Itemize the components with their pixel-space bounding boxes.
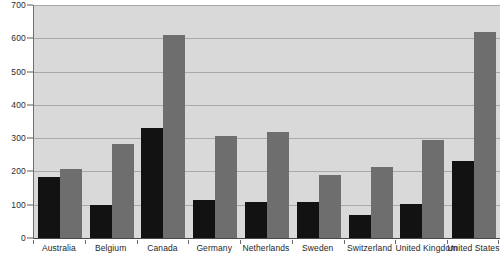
x-axis-tick-mark xyxy=(240,240,241,244)
x-axis-tick-mark xyxy=(85,240,86,244)
x-axis-tick-mark xyxy=(344,240,345,244)
plot-area xyxy=(33,5,500,239)
bar xyxy=(38,177,60,238)
bar xyxy=(141,128,163,238)
bar xyxy=(163,35,185,238)
y-axis-tick-label: 200 xyxy=(11,166,26,176)
x-axis-tick-mark xyxy=(137,240,138,244)
x-axis-tick-label: Sweden xyxy=(292,243,344,253)
y-axis-tick-label: 0 xyxy=(21,233,26,243)
x-axis-tick-mark xyxy=(447,240,448,244)
y-axis-tick-label: 700 xyxy=(11,0,26,10)
bar xyxy=(297,202,319,238)
x-axis-tick-mark xyxy=(395,240,396,244)
bar xyxy=(112,144,134,238)
y-axis-tick-label: 400 xyxy=(11,100,26,110)
bar-group xyxy=(448,5,500,238)
y-axis-tick-label: 300 xyxy=(11,133,26,143)
bar xyxy=(319,175,341,238)
bar-group xyxy=(34,5,86,238)
bar xyxy=(60,169,82,238)
bar-group xyxy=(396,5,448,238)
x-axis-tick-mark xyxy=(292,240,293,244)
y-axis: 0100200300400500600700 xyxy=(0,0,33,239)
bar xyxy=(400,204,422,238)
bar xyxy=(422,140,444,238)
x-axis-tick-label: Belgium xyxy=(85,243,137,253)
y-axis-tick-label: 600 xyxy=(11,33,26,43)
bar xyxy=(193,200,215,238)
x-axis-tick-mark xyxy=(33,240,34,244)
bar xyxy=(215,136,237,238)
x-axis-tick-label: Netherlands xyxy=(240,243,292,253)
x-axis-tick-label: Switzerland xyxy=(344,243,396,253)
x-axis-tick-label: United States xyxy=(447,243,499,253)
bar-group xyxy=(138,5,190,238)
bar xyxy=(371,167,393,238)
bar xyxy=(452,161,474,238)
bar xyxy=(245,202,267,238)
x-axis-tick-label: United Kingdom xyxy=(395,243,447,253)
bar-group xyxy=(293,5,345,238)
y-axis-tick-label: 100 xyxy=(11,200,26,210)
bar-group xyxy=(86,5,138,238)
bar xyxy=(474,32,496,238)
bar xyxy=(90,205,112,238)
y-axis-tick-label: 500 xyxy=(11,67,26,77)
bar xyxy=(267,132,289,238)
x-axis: AustraliaBelgiumCanadaGermanyNetherlands… xyxy=(33,240,499,259)
x-axis-tick-label: Canada xyxy=(137,243,189,253)
bar xyxy=(349,215,371,238)
x-axis-tick-mark xyxy=(188,240,189,244)
bar-group xyxy=(189,5,241,238)
x-axis-tick-label: Australia xyxy=(33,243,85,253)
bar-group xyxy=(345,5,397,238)
bars-layer xyxy=(34,5,500,238)
x-axis-tick-label: Germany xyxy=(188,243,240,253)
bar-group xyxy=(241,5,293,238)
x-axis-tick-mark xyxy=(498,240,499,244)
bar-chart: 0100200300400500600700 AustraliaBelgiumC… xyxy=(0,0,501,259)
